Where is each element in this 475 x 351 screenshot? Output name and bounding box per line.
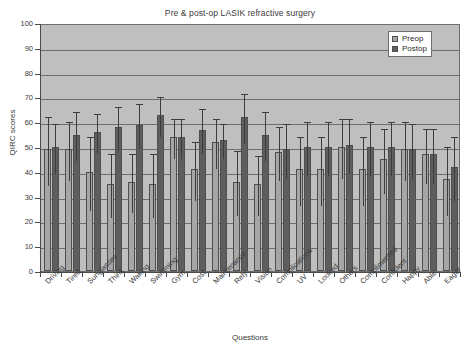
y-axis-tick-label: 40 (0, 169, 33, 177)
y-axis-line (40, 24, 41, 273)
legend-swatch-preop-icon (392, 36, 398, 42)
y-axis-tick-label-text: 50 (3, 144, 33, 152)
error-bar-cap-upper (409, 124, 416, 125)
legend-item-postop: Postop (392, 44, 427, 54)
legend-swatch-postop-icon (392, 46, 398, 52)
error-bar-cap-upper (150, 154, 157, 155)
legend-label-preop: Preop (402, 34, 423, 44)
error-bar-stem (160, 97, 161, 137)
y-axis-tick-label-text: 100 (3, 20, 33, 28)
error-bar-cap-upper (129, 154, 136, 155)
error-bar-cap-upper (402, 122, 409, 123)
error-bar-cap-upper (388, 122, 395, 123)
error-bar-cap-upper (73, 112, 80, 113)
error-bar-cap-upper (94, 114, 101, 115)
error-bar-stem (342, 119, 343, 179)
error-bar-stem (363, 137, 364, 206)
x-axis-tick (187, 273, 188, 277)
y-axis-tick-label: 0 (0, 268, 33, 276)
error-bar-cap-upper (157, 97, 164, 98)
error-bar-stem (55, 124, 56, 174)
gridline (41, 75, 459, 76)
y-axis-tick (35, 148, 40, 149)
error-bar-stem (111, 154, 112, 218)
error-bar-stem (447, 147, 448, 216)
error-bar-cap-upper (262, 112, 269, 113)
error-bar-stem (384, 129, 385, 193)
y-axis-tick-label-text: 40 (3, 169, 33, 177)
y-axis-tick-label: 10 (0, 243, 33, 251)
error-bar-cap-upper (451, 137, 458, 138)
error-bar-cap-upper (276, 127, 283, 128)
error-bar-cap-upper (339, 119, 346, 120)
gridline (41, 174, 459, 175)
y-axis-tick-label: 80 (0, 70, 33, 78)
y-axis-tick-label: 20 (0, 218, 33, 226)
error-bar-stem (405, 122, 406, 182)
cropped-header-strip (0, 0, 475, 7)
plot-inner (41, 25, 459, 271)
error-bar-stem (258, 156, 259, 216)
error-bar-stem (265, 112, 266, 162)
gridline (41, 199, 459, 200)
legend-label-postop: Postop (402, 44, 427, 54)
chart-legend: Preop Postop (388, 31, 432, 57)
y-axis-tick (35, 123, 40, 124)
error-bar-cap-upper (171, 119, 178, 120)
error-bar-cap-upper (360, 137, 367, 138)
y-axis-tick-label: 100 (0, 20, 33, 28)
y-axis-tick-label: 60 (0, 119, 33, 127)
y-axis-tick-label: 90 (0, 45, 33, 53)
plot-area (40, 24, 460, 272)
error-bar-cap-upper (381, 129, 388, 130)
y-axis-tick (35, 198, 40, 199)
error-bar-cap-upper (423, 129, 430, 130)
error-bar-cap-upper (52, 124, 59, 125)
error-bar-stem (174, 119, 175, 159)
error-bar-cap-upper (220, 124, 227, 125)
error-bar-cap-upper (367, 122, 374, 123)
y-axis-tick-label-text: 90 (3, 45, 33, 53)
error-bar-stem (90, 137, 91, 211)
bar-postop (220, 140, 227, 271)
error-bar-stem (118, 107, 119, 152)
y-axis-tick (35, 49, 40, 50)
error-bar-stem (181, 119, 182, 159)
error-bar-cap-upper (213, 119, 220, 120)
gridline (41, 124, 459, 125)
y-axis-tick (35, 222, 40, 223)
error-bar-stem (237, 151, 238, 215)
error-bar-cap-upper (192, 142, 199, 143)
error-bar-cap-upper (66, 122, 73, 123)
y-axis-tick-label: 70 (0, 94, 33, 102)
y-axis-tick-label-text: 20 (3, 218, 33, 226)
error-bar-stem (286, 124, 287, 179)
legend-item-preop: Preop (392, 34, 427, 44)
chart-figure: Pre & post-op LASIK refractive surgery Q… (0, 0, 475, 351)
y-axis-tick (35, 24, 40, 25)
error-bar-cap-upper (297, 137, 304, 138)
x-axis-tick (439, 273, 440, 277)
error-bar-cap-upper (430, 129, 437, 130)
x-axis-tick (313, 273, 314, 277)
error-bar-cap-upper (115, 107, 122, 108)
error-bar-stem (349, 119, 350, 174)
error-bar-stem (328, 122, 329, 177)
bar-postop (157, 115, 164, 271)
error-bar-cap-upper (234, 151, 241, 152)
error-bar-stem (370, 122, 371, 177)
y-axis-tick (35, 247, 40, 248)
x-axis-tick-label: UV (296, 273, 309, 286)
error-bar-stem (279, 127, 280, 182)
y-axis-tick (35, 173, 40, 174)
error-bar-stem (307, 122, 308, 177)
error-bar-cap-upper (241, 94, 248, 95)
y-axis-tick (35, 74, 40, 75)
error-bar-stem (412, 124, 413, 179)
error-bar-stem (454, 137, 455, 201)
error-bar-cap-upper (45, 117, 52, 118)
y-axis-tick-label-text: 70 (3, 94, 33, 102)
error-bar-cap-upper (318, 137, 325, 138)
error-bar-stem (139, 104, 140, 149)
x-axis-tick (250, 273, 251, 277)
